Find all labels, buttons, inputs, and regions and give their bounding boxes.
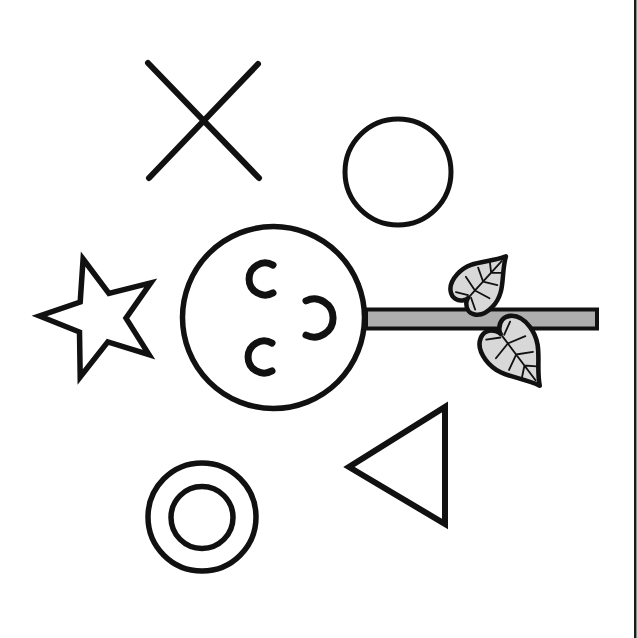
drawing-page: [0, 0, 637, 638]
illustration-svg: [0, 0, 637, 638]
page-edge-line: [634, 0, 637, 638]
fruit-circle: [183, 227, 365, 409]
donut-outer-circle: [148, 463, 256, 571]
